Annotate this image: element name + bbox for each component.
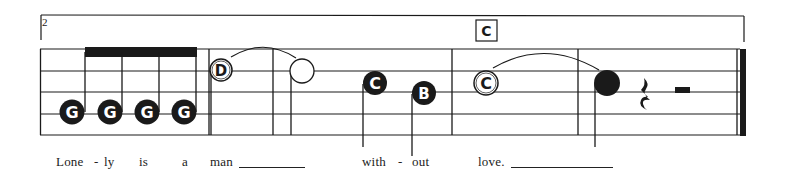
svg-text:B: B xyxy=(418,85,429,103)
svg-text:G: G xyxy=(177,103,190,122)
final-barline-thick xyxy=(740,49,746,136)
lyric-extender-line xyxy=(239,167,305,168)
lyric-hyphen: - xyxy=(398,154,403,170)
note-open-half xyxy=(290,59,314,83)
lyric-extender-line xyxy=(511,167,613,168)
note-d: D xyxy=(210,59,232,81)
note-stems xyxy=(85,52,595,156)
lyric-syllable: ly xyxy=(104,154,115,170)
svg-text:C: C xyxy=(480,74,492,93)
rehearsal-mark-box: C xyxy=(476,20,497,41)
note-c: C xyxy=(363,71,387,95)
svg-text:G: G xyxy=(140,103,153,122)
tie-arc-2 xyxy=(493,53,599,70)
lyric-word: man xyxy=(210,154,233,170)
svg-text:C: C xyxy=(369,74,381,93)
rehearsal-mark-label: C xyxy=(481,23,491,39)
note-g-2: G xyxy=(98,100,123,125)
lyric-word: love. xyxy=(478,154,505,170)
lyric-word: is xyxy=(139,154,148,170)
lyric-syllable: with xyxy=(362,154,386,170)
measure-bracket xyxy=(41,15,744,42)
note-g-3: G xyxy=(135,100,160,125)
svg-text:G: G xyxy=(65,103,78,122)
svg-text:D: D xyxy=(215,62,227,80)
lyric-syllable: Lone xyxy=(56,154,84,170)
measure-number: 2 xyxy=(42,16,48,28)
note-filled-quarter xyxy=(594,70,620,96)
sheet-music-staff: 2 C xyxy=(0,0,785,186)
note-g-1: G xyxy=(60,100,85,125)
quarter-rest-icon xyxy=(640,78,650,110)
note-g-4: G xyxy=(172,100,197,125)
beam xyxy=(85,47,197,57)
note-c-open: C xyxy=(474,71,498,95)
lyric-word: a xyxy=(182,154,188,170)
lyric-syllable: out xyxy=(412,154,429,170)
svg-text:G: G xyxy=(103,103,116,122)
half-rest-icon xyxy=(675,87,690,93)
lyric-hyphen: - xyxy=(94,154,99,170)
note-b: B xyxy=(412,81,436,105)
